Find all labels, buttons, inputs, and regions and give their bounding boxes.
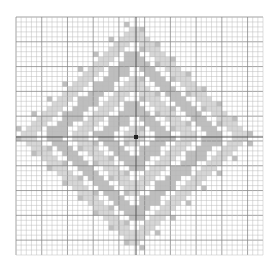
center-dot	[134, 135, 138, 139]
grid-diagram	[0, 0, 273, 266]
grid-lines	[16, 17, 263, 255]
